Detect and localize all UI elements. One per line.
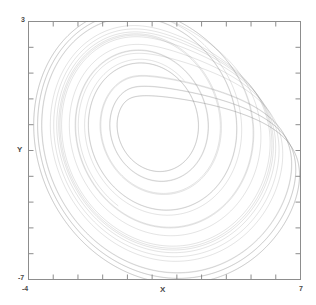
x-axis-min-label: -4 — [22, 285, 28, 292]
x-axis-title: X — [160, 286, 165, 294]
plot-frame — [29, 22, 301, 280]
y-axis-min-label: -7 — [18, 274, 24, 281]
attractor-plot-canvas — [0, 0, 316, 305]
phase-portrait-figure: 3 -7 -4 7 X Y — [0, 0, 316, 305]
y-axis-max-label: 3 — [21, 16, 25, 23]
trajectory-group — [34, 9, 300, 284]
attractor-trajectory — [34, 9, 300, 284]
axis-ticks — [29, 22, 301, 280]
y-axis-title: Y — [17, 146, 22, 154]
x-axis-max-label: 7 — [299, 285, 303, 292]
